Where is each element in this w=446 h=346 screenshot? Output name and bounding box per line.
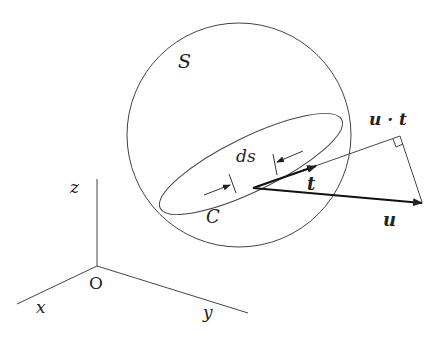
y-axis	[97, 266, 248, 313]
sphere-surface	[127, 23, 351, 247]
label-origin: O	[89, 273, 103, 293]
diagram-canvas: S C ds t u u · t O x y z	[0, 0, 446, 346]
label-axis-y: y	[202, 302, 213, 322]
label-curve-c: C	[206, 206, 220, 227]
label-ds: ds	[236, 146, 256, 166]
label-vector-u: u	[383, 209, 396, 230]
x-axis	[17, 266, 97, 304]
label-tangent-t: t	[307, 173, 316, 194]
label-projection: u · t	[369, 109, 407, 129]
label-surface-s: S	[178, 50, 191, 72]
ds-arrow-left	[204, 185, 230, 195]
label-axis-z: z	[69, 177, 80, 197]
ds-arrow-right	[277, 151, 303, 162]
perpendicular-line	[400, 136, 422, 202]
vector-u	[253, 188, 422, 203]
label-axis-x: x	[36, 297, 46, 317]
coordinate-axes	[17, 179, 248, 313]
